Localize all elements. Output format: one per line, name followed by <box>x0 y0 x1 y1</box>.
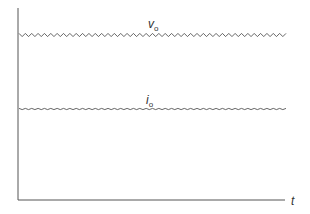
x-axis-label: t <box>291 194 295 208</box>
io-label: io <box>146 93 154 109</box>
vo-waveform <box>19 33 286 36</box>
waveform-diagram: t vo io <box>0 0 310 214</box>
vo-label: vo <box>148 17 159 33</box>
